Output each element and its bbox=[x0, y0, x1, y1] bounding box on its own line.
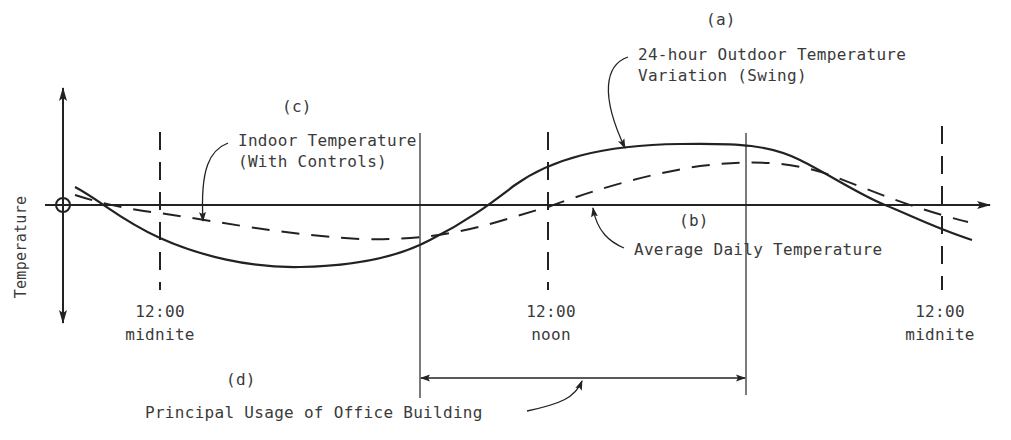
usage-boundaries bbox=[420, 133, 746, 398]
time-marker-1-time: 12:00 bbox=[115, 302, 205, 322]
label-a-tag: (a) bbox=[706, 10, 736, 30]
label-d-text: Principal Usage of Office Building bbox=[145, 403, 483, 423]
time-marker-3-time: 12:00 bbox=[895, 302, 985, 322]
leader-arrow-indoor bbox=[202, 143, 228, 221]
label-c-line1: Indoor Temperature bbox=[238, 131, 417, 151]
label-a-line2: Variation (Swing) bbox=[638, 66, 807, 86]
label-a-line1: 24-hour Outdoor Temperature bbox=[638, 45, 906, 65]
label-c-line2: (With Controls) bbox=[238, 152, 387, 172]
label-c-tag: (c) bbox=[282, 97, 312, 117]
time-marker-1-label: midnite bbox=[115, 325, 205, 345]
leader-arrow-usage bbox=[527, 381, 582, 411]
label-d-tag: (d) bbox=[226, 370, 256, 390]
y-axis-label: Temperature bbox=[12, 196, 30, 299]
label-b-tag: (b) bbox=[679, 211, 709, 231]
label-b-text: Average Daily Temperature bbox=[634, 240, 882, 260]
time-marker-2-time: 12:00 bbox=[506, 302, 596, 322]
leader-arrow-outdoor bbox=[608, 57, 628, 148]
leader-arrow-average bbox=[593, 208, 624, 248]
temperature-swing-diagram bbox=[0, 0, 1011, 440]
time-marker-2-label: noon bbox=[506, 325, 596, 345]
time-marker-3-label: midnite bbox=[895, 325, 985, 345]
indoor-temperature-curve bbox=[75, 163, 968, 240]
